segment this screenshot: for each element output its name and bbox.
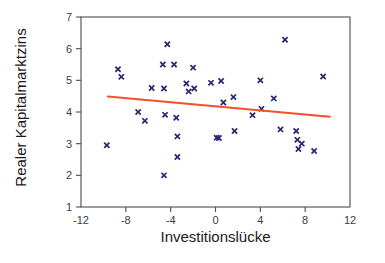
- x-tick-label: 4: [257, 214, 263, 226]
- y-tick-label: 6: [66, 43, 72, 55]
- x-tick-label: 12: [344, 214, 356, 226]
- x-tick-label: 0: [212, 214, 218, 226]
- x-axis-title: Investitionslücke: [81, 228, 350, 246]
- x-axis-ticks: -12-8-404812: [73, 207, 356, 226]
- x-axis-title-text: Investitionslücke: [160, 228, 270, 245]
- y-tick-label: 1: [66, 201, 72, 213]
- y-tick-label: 3: [66, 138, 72, 150]
- plot-frame: [81, 17, 350, 207]
- y-tick-label: 5: [66, 74, 72, 86]
- x-tick-label: -12: [73, 214, 89, 226]
- y-tick-label: 4: [66, 106, 72, 118]
- chart-figure: Realer Kapitalmarktzins 1234567 -12-8-40…: [0, 0, 385, 263]
- y-axis-ticks: 1234567: [66, 11, 81, 213]
- scatter-plot-canvas: 1234567 -12-8-404812: [0, 0, 385, 263]
- y-tick-label: 7: [66, 11, 72, 23]
- x-tick-label: 8: [302, 214, 308, 226]
- x-tick-label: -4: [166, 214, 176, 226]
- y-tick-label: 2: [66, 169, 72, 181]
- x-tick-label: -8: [121, 214, 131, 226]
